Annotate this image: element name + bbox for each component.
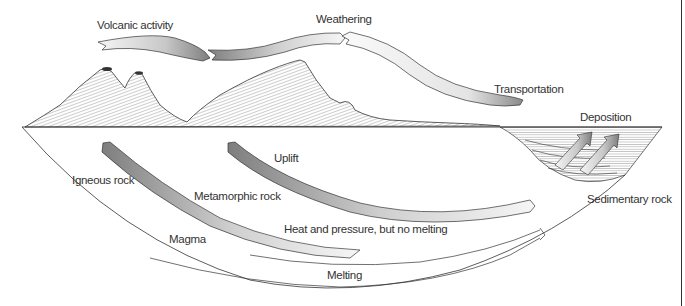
label-weathering: Weathering — [316, 13, 372, 25]
label-uplift: Uplift — [274, 152, 300, 164]
label-deposition: Deposition — [580, 111, 631, 123]
rock-cycle-diagram: Volcanic activity Weathering Transportat… — [0, 0, 685, 306]
sea-basin — [500, 127, 662, 182]
label-sedimentary-rock: Sedimentary rock — [587, 193, 672, 205]
mountains — [25, 60, 500, 127]
label-transportation: Transportation — [494, 83, 564, 95]
volcano-crater-icon — [102, 67, 112, 71]
right-border — [681, 0, 682, 306]
label-igneous-rock: Igneous rock — [72, 174, 135, 186]
volcanic-activity-arrow — [98, 36, 210, 61]
weathering-arrow — [208, 33, 345, 60]
label-volcanic-activity: Volcanic activity — [97, 19, 174, 31]
volcano-crater-icon — [135, 71, 143, 75]
label-magma: Magma — [169, 233, 207, 245]
label-melting: Melting — [327, 269, 362, 281]
label-heat-pressure: Heat and pressure, but no melting — [284, 223, 447, 235]
label-metamorphic-rock: Metamorphic rock — [194, 190, 281, 202]
